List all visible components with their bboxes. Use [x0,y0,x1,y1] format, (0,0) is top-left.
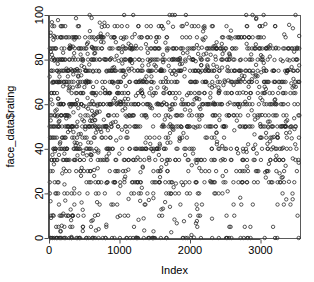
data-point [246,114,249,117]
data-point [124,73,127,76]
data-point [79,174,82,177]
data-point [289,147,292,150]
data-point [278,86,281,89]
data-point [251,36,254,39]
data-point [267,114,270,117]
data-point [237,181,240,184]
data-point [181,51,184,54]
data-point [285,136,288,139]
data-point [123,107,126,110]
data-point [130,61,133,64]
data-point [96,167,99,170]
data-point [187,103,190,106]
data-point [141,64,144,67]
data-point [76,120,79,123]
data-point [149,142,152,145]
data-point [232,203,235,206]
data-point [119,181,122,184]
data-point [255,152,258,155]
data-point [77,106,80,109]
data-point [91,85,94,88]
data-point [224,169,227,172]
data-point [69,208,72,211]
data-point [83,36,86,39]
data-point [260,147,263,150]
data-point [207,169,210,172]
data-point [236,152,239,155]
data-points-layer [48,13,301,239]
data-point [291,198,294,201]
data-point [52,163,55,166]
data-point [187,169,190,172]
y-axis-tick-label: 0 [33,235,45,241]
data-point [183,153,186,156]
data-point [89,158,92,161]
data-point [195,43,198,46]
data-point [209,91,212,94]
data-point [118,152,121,155]
data-point [220,66,223,69]
data-point [125,130,128,133]
data-point [292,50,295,53]
data-point [285,147,288,150]
data-point [51,169,54,172]
data-point [119,136,122,139]
data-point [268,140,271,143]
data-point [261,99,264,102]
data-point [197,24,200,27]
data-point [243,80,246,83]
data-point [226,65,229,68]
data-point [290,137,293,140]
data-point [245,165,248,168]
data-point [179,203,182,206]
y-axis: 020406080100 [33,6,49,241]
data-point [63,152,66,155]
data-point [166,136,169,139]
data-point [235,169,238,172]
data-point [288,131,291,134]
data-point [161,53,164,56]
data-point [64,24,67,27]
data-point [64,199,67,202]
data-point [150,75,153,78]
data-point [68,128,71,131]
data-point [158,136,161,139]
data-point [177,158,180,161]
data-point [256,69,259,72]
data-point [296,214,299,217]
data-point [239,196,242,199]
data-point [103,192,106,195]
data-point [293,103,296,106]
data-point [79,53,82,56]
data-point [138,199,141,202]
data-point [153,136,156,139]
data-point [200,46,203,49]
data-point [174,73,177,76]
data-point [295,169,298,172]
data-point [276,203,279,206]
data-point [198,125,201,128]
data-point [247,96,250,99]
data-point [174,182,177,185]
data-point [127,197,130,200]
data-point [284,164,287,167]
data-point [76,154,79,157]
data-point [221,174,224,177]
x-axis-title: Index [161,264,188,276]
data-point [185,22,188,25]
data-point [221,52,224,55]
data-point [171,25,174,28]
data-point [255,80,258,83]
data-point [99,91,102,94]
data-point [96,213,99,216]
data-point [291,192,294,195]
data-point [56,62,59,65]
data-point [88,29,91,32]
data-point [188,36,191,39]
data-point [160,158,163,161]
data-point [75,169,78,172]
data-point [146,51,149,54]
data-point [157,114,160,117]
data-point [75,98,78,101]
plot-canvas: 020406080100 0100020003000 Index face_da… [0,0,314,282]
